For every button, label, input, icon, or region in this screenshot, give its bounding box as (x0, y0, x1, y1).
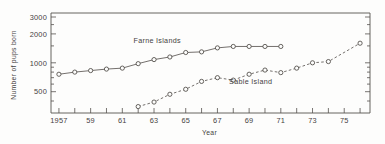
data-point (279, 44, 283, 48)
data-point (136, 104, 140, 108)
data-point (295, 66, 299, 70)
data-point (152, 100, 156, 104)
y-tick-label: 1000 (30, 59, 47, 68)
data-point (247, 72, 251, 76)
data-point (215, 46, 219, 50)
x-tick-label: 1957 (50, 116, 67, 125)
y-tick-label: 2000 (30, 30, 47, 39)
data-point (152, 57, 156, 61)
data-point (89, 68, 93, 72)
x-tick-label: 67 (213, 116, 222, 125)
data-point (168, 55, 172, 59)
data-point (310, 61, 314, 65)
data-point (279, 71, 283, 75)
y-axis-title: Number of pups born (10, 30, 18, 100)
data-point (199, 79, 203, 83)
data-point (358, 41, 362, 45)
data-point (184, 87, 188, 91)
chart-canvas: 5001000200030001957596163656769717375Far… (0, 0, 385, 144)
x-tick-label: 69 (245, 116, 254, 125)
figure-container: 5001000200030001957596163656769717375Far… (0, 0, 385, 144)
x-tick-label: 75 (340, 116, 349, 125)
data-point (215, 76, 219, 80)
data-point (231, 44, 235, 48)
y-tick-label: 3000 (30, 13, 47, 22)
x-tick-label: 59 (86, 116, 95, 125)
x-axis-title: Year (202, 129, 217, 136)
x-tick-label: 65 (181, 116, 190, 125)
data-point (184, 50, 188, 54)
data-point (247, 44, 251, 48)
x-tick-label: 61 (118, 116, 127, 125)
data-point (199, 50, 203, 54)
series-label-1: Farne Islands (133, 36, 181, 45)
data-point (326, 59, 330, 63)
y-tick-label: 500 (34, 87, 47, 96)
x-tick-label: 73 (308, 116, 317, 125)
data-point (120, 66, 124, 70)
x-tick-label: 71 (277, 116, 286, 125)
data-point (168, 92, 172, 96)
data-point (263, 68, 267, 72)
series-label-2: Sable Island (229, 77, 272, 86)
data-point (73, 70, 77, 74)
data-point (136, 62, 140, 66)
data-point (104, 67, 108, 71)
data-point (57, 72, 61, 76)
data-point (263, 44, 267, 48)
x-tick-label: 63 (150, 116, 159, 125)
